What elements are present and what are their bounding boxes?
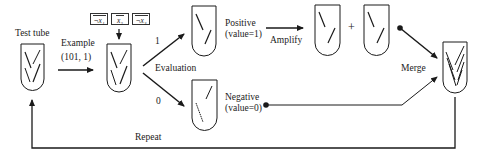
merge-arrow-positive [400,28,437,58]
example-tube [107,44,131,92]
merge-label: Merge [401,63,426,74]
negative-value: (value=0) [225,103,262,114]
example-value: (101, 1) [61,52,91,63]
branch-one-arrow [143,34,184,66]
negative-tube [192,80,217,130]
positive-label: Positive [225,18,256,29]
positive-value: (value=1) [225,29,262,40]
merged-tube [443,42,467,93]
positive-tube [192,6,216,56]
variable-not-x1: ¬x₁ [90,13,108,25]
branch-one-label: 1 [155,36,160,47]
evaluation-label: Evaluation [155,63,196,74]
test-tube [21,44,44,91]
negative-label: Negative [225,92,259,103]
amplified-tube-b [364,5,389,55]
plus-sign: + [348,22,355,33]
example-label: Example [61,38,95,49]
repeat-label: Repeat [135,132,161,143]
variable-x2: x₂ [111,13,129,25]
branch-zero-arrow [143,73,184,106]
merge-arrow-negative [266,77,437,105]
test-tube-label: Test tube [15,28,49,39]
amplified-tube-a [315,5,340,55]
branch-zero-label: 0 [156,96,161,107]
amplify-label: Amplify [270,35,302,46]
variable-not-x3: ¬x₃ [132,13,150,25]
